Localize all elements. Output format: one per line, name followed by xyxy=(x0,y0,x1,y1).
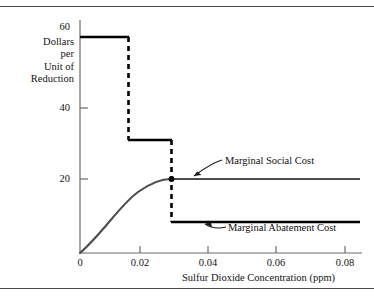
y-tick-label-20: 20 xyxy=(44,173,70,185)
x-tick-label-0.08: 0.08 xyxy=(325,257,365,269)
marginal-social-cost-label: Marginal Social Cost xyxy=(225,155,314,167)
x-tick-label-0: 0 xyxy=(60,257,100,269)
y-tick-label-60: 60 xyxy=(44,21,70,33)
x-tick-label-0.06: 0.06 xyxy=(256,257,296,269)
y-tick-label-40: 40 xyxy=(44,102,70,114)
y-axis-title-line-4: Reduction xyxy=(12,73,74,85)
x-tick-label-0.04: 0.04 xyxy=(188,257,228,269)
intersection-point-marker xyxy=(169,176,175,182)
y-axis-title-line-3: Unit of xyxy=(12,61,74,73)
y-axis-title: Dollars per Unit of Reduction xyxy=(12,36,74,86)
y-axis-title-line-1: Dollars xyxy=(12,36,74,48)
y-axis-title-line-2: per xyxy=(12,48,74,60)
marginal-abatement-cost-label: Marginal Abatement Cost xyxy=(228,222,336,234)
marginal-social-cost-curve xyxy=(80,179,171,253)
x-tick-label-0.02: 0.02 xyxy=(120,257,160,269)
x-axis-title: Sulfur Dioxide Concentration (ppm) xyxy=(182,272,335,283)
msc-leader-arrowhead xyxy=(194,172,201,176)
figure-container: 60 40 20 Dollars per Unit of Reduction 0… xyxy=(0,0,374,302)
